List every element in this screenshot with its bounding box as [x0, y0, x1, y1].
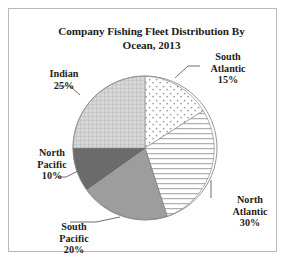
pie-label-north-atlantic-value: 30%	[213, 217, 287, 229]
pie-label-south-atlantic: South Atlantic 15%	[191, 51, 265, 86]
pie-label-north-pacific-value: 10%	[21, 170, 83, 182]
pie-chart-area: South Atlantic 15% North Atlantic 30% In…	[8, 8, 277, 252]
pie-label-north-pacific-line-2: Pacific	[21, 159, 83, 171]
pie-label-indian-line-1: Indian	[30, 68, 98, 80]
pie-label-south-atlantic-value: 15%	[191, 74, 265, 86]
pie-label-south-atlantic-line-2: Atlantic	[191, 63, 265, 75]
pie-label-indian-value: 25%	[30, 80, 98, 92]
pie-label-indian: Indian 25%	[30, 68, 98, 91]
pie-label-north-atlantic-line-1: North	[213, 194, 287, 206]
pie-label-north-atlantic-line-2: Atlantic	[213, 206, 287, 218]
pie-label-south-pacific: South Pacific 20%	[38, 221, 110, 256]
pie-label-south-pacific-value: 20%	[38, 244, 110, 256]
pie-slices	[73, 76, 217, 220]
pie-label-north-atlantic: North Atlantic 30%	[213, 194, 287, 229]
pie-label-south-pacific-line-1: South	[38, 221, 110, 233]
pie-label-north-pacific-line-1: North	[21, 147, 83, 159]
pie-label-north-pacific: North Pacific 10%	[21, 147, 83, 182]
pie-label-south-atlantic-line-1: South	[191, 51, 265, 63]
pie-label-south-pacific-line-2: Pacific	[38, 233, 110, 245]
